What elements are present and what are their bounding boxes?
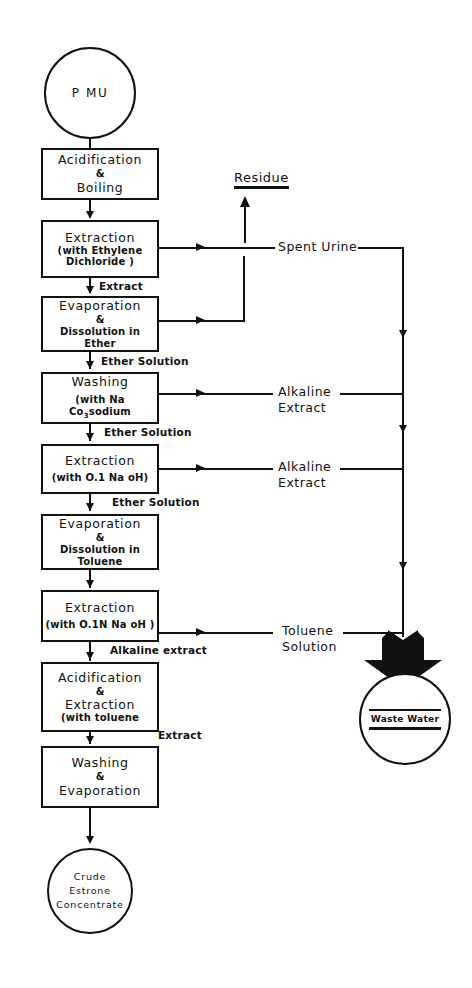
stream-label-extract-1: Extract — [99, 280, 143, 292]
output-alkaline-extract-1-line2: Extract — [278, 400, 331, 416]
waste-water-rule-bottom — [369, 727, 441, 730]
step-line-3: Boiling — [77, 181, 124, 195]
branch-washing-to-alkaline-extract-1 — [159, 393, 273, 395]
output-alkaline-extract-2-line1: Alkaline — [278, 459, 331, 475]
stream-label-alkaline-extract: Alkaline extract — [110, 644, 207, 656]
arrowhead-extraction1-branch — [196, 243, 205, 251]
step-line-1: Washing — [71, 375, 128, 389]
branch-junction-to-spent-urine — [245, 247, 275, 249]
step-line-2: & — [96, 771, 105, 782]
step-line-1: Extraction — [65, 454, 135, 468]
arrowhead-to-extraction3 — [86, 580, 94, 588]
output-alkaline-extract-1-label: Alkaline Extract — [278, 384, 331, 415]
step-line-1: Acidification — [58, 671, 142, 685]
branch-extraction3-to-toluene-solution — [159, 632, 273, 634]
step-line-3: Evaporation — [59, 784, 141, 798]
branch-alkaline-extract-1-to-collector — [340, 393, 403, 395]
step-line-3: Extraction — [65, 698, 135, 712]
step-line-1: Evaporation — [59, 299, 141, 313]
step-evaporation-toluene: Evaporation & Dissolution in Toluene — [41, 514, 159, 570]
terminal-waste-water-label: Waste Water — [371, 714, 439, 724]
step-line-2: & — [96, 686, 105, 697]
waste-collector-main-line — [402, 247, 404, 637]
step-line-2: (with Ethylene — [58, 245, 143, 256]
step-line-1: Washing — [71, 756, 128, 770]
step-line-2: & — [96, 168, 105, 179]
stream-label-ether-solution-1: Ether Solution — [101, 355, 189, 367]
waste-water-rule-top — [369, 709, 441, 712]
output-spent-urine-label: Spent Urine — [278, 239, 357, 255]
process-flow-diagram: P MU Acidification & Boiling Extraction … — [0, 0, 472, 988]
step-line-2: (with O.1 Na oH) — [52, 472, 149, 483]
arrowhead-to-extraction1 — [86, 211, 94, 219]
step-line-1: Extraction — [65, 231, 135, 245]
collector-arrowhead-3 — [399, 562, 407, 570]
product-line-1: Crude — [74, 870, 106, 884]
step-acidification-extraction-toluene: Acidification & Extraction (with toluene — [41, 662, 159, 732]
arrowhead-to-extraction2 — [86, 433, 94, 441]
terminal-crude-estrone-concentrate: Crude Estrone Concentrate — [47, 848, 133, 934]
step-line-3: Dichloride ) — [66, 256, 134, 267]
junction-riser-from-evaporation1 — [243, 256, 245, 322]
stream-label-ether-solution-3: Ether Solution — [112, 496, 200, 508]
step-line-1: Extraction — [65, 601, 135, 615]
arrowhead-alkaline-extract-1 — [196, 389, 205, 397]
stream-label-ether-solution-2: Ether Solution — [104, 426, 192, 438]
step-washing-sodium-carbonate: Washing (with Na Co3sodium — [41, 372, 159, 424]
arrowhead-to-product — [86, 836, 94, 844]
arrowhead-toluene-solution — [196, 628, 205, 636]
junction-riser-to-residue — [244, 205, 246, 243]
output-toluene-solution-label: Toluene Solution — [282, 623, 337, 654]
terminal-waste-water: Waste Water — [359, 673, 451, 765]
output-alkaline-extract-1-line1: Alkaline — [278, 384, 331, 400]
arrowhead-to-acidification2 — [86, 652, 94, 660]
arrowhead-residue — [240, 196, 250, 207]
step-line-2: (with Na Co3sodium — [43, 394, 157, 420]
arrowhead-to-washing2 — [86, 736, 94, 744]
collector-arrowhead-1 — [399, 330, 407, 338]
terminal-pmu-label: P MU — [72, 86, 109, 100]
step-line-4: (with toluene — [61, 712, 139, 723]
step-line-2: (with O.1N Na oH ) — [46, 619, 155, 630]
step-line-3: Dissolution in Toluene — [43, 544, 157, 566]
arrowhead-to-evaporation2 — [86, 503, 94, 511]
step-extraction-01-naoh: Extraction (with O.1 Na oH) — [41, 444, 159, 494]
step-evaporation-ether: Evaporation & Dissolution in Ether — [41, 296, 159, 352]
step-line-1: Acidification — [58, 153, 142, 167]
step-line-2: & — [96, 532, 105, 543]
branch-extraction2-to-alkaline-extract-2 — [159, 468, 273, 470]
product-line-2: Estrone — [69, 884, 111, 898]
arrowhead-to-washing1 — [86, 361, 94, 369]
output-alkaline-extract-2-line2: Extract — [278, 475, 331, 491]
output-toluene-solution-line1: Toluene — [282, 623, 337, 639]
output-toluene-solution-line2: Solution — [282, 639, 337, 655]
arrowhead-alkaline-extract-2 — [196, 464, 205, 472]
step-extraction-ethylene-dichloride: Extraction (with Ethylene Dichloride ) — [41, 220, 159, 278]
step-line-1: Evaporation — [59, 517, 141, 531]
step-acidification-boiling: Acidification & Boiling — [41, 148, 159, 200]
branch-alkaline-extract-2-to-collector — [340, 468, 403, 470]
step-washing-evaporation: Washing & Evaporation — [41, 746, 159, 808]
arrowhead-to-evaporation1 — [86, 286, 94, 294]
collector-arrowhead-2 — [399, 425, 407, 433]
terminal-pmu: P MU — [44, 47, 136, 139]
step-line-2: & — [96, 314, 105, 325]
output-alkaline-extract-2-label: Alkaline Extract — [278, 459, 331, 490]
stream-label-extract-2: Extract — [158, 729, 202, 741]
product-line-3: Concentrate — [56, 898, 123, 912]
step-line-3: Dissolution in Ether — [43, 326, 157, 348]
step-extraction-01n-naoh: Extraction (with O.1N Na oH ) — [41, 590, 159, 642]
branch-spent-urine-to-collector — [358, 247, 403, 249]
output-residue-label: Residue — [234, 170, 289, 189]
arrowhead-evaporation1-branch — [196, 316, 205, 324]
